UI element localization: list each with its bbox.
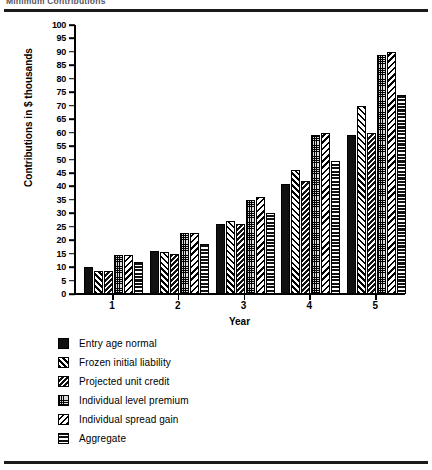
bar (114, 255, 123, 294)
bar (321, 133, 330, 294)
y-axis-tick-mark (69, 65, 75, 67)
legend-item-label: Entry age normal (79, 338, 157, 349)
x-axis-title: Year (74, 316, 405, 327)
y-axis-tick-mark (69, 159, 75, 161)
bar (180, 233, 189, 294)
legend-swatch (58, 357, 69, 368)
y-axis-tick-mark (69, 280, 75, 282)
x-axis-tick-label: 3 (241, 300, 247, 311)
y-axis-tick-mark (69, 118, 75, 120)
bar (367, 133, 376, 294)
legend-item: Projected unit credit (58, 372, 189, 391)
legend-item: Entry age normal (58, 334, 189, 353)
bar-group (281, 25, 341, 294)
y-axis-tick-mark (69, 293, 75, 295)
x-axis-tick-label: 2 (175, 300, 181, 311)
bar-group (84, 25, 144, 294)
y-axis-tick-label: 0 (0, 289, 66, 299)
bar (160, 252, 169, 294)
bar (200, 244, 209, 294)
legend-item-label: Frozen initial liability (79, 357, 171, 368)
page-title: Minimum Contributions (6, 0, 106, 6)
legend-item-label: Aggregate (79, 433, 126, 444)
x-axis-tick-label: 1 (109, 300, 115, 311)
y-axis-tick-mark (69, 38, 75, 40)
legend-swatch (58, 338, 69, 349)
y-axis-tick-label: 20 (0, 235, 66, 245)
legend-item: Aggregate (58, 429, 189, 448)
bar (216, 224, 225, 294)
y-axis-tick-mark (69, 24, 75, 26)
y-axis-tick-mark (69, 213, 75, 215)
chart-legend: Entry age normalFrozen initial liability… (58, 334, 189, 448)
legend-item-label: Individual spread gain (79, 414, 179, 425)
y-axis-tick-mark (69, 172, 75, 174)
bar (84, 267, 93, 294)
y-axis-tick-label: 25 (0, 222, 66, 232)
legend-swatch (58, 395, 69, 406)
bar (94, 271, 103, 294)
y-axis-tick-mark (69, 226, 75, 228)
legend-item: Individual spread gain (58, 410, 189, 429)
y-axis-title: Contributions in $ thousands (23, 28, 34, 208)
legend-item-label: Projected unit credit (79, 376, 169, 387)
y-axis-tick-mark (69, 266, 75, 268)
y-axis-tick-label: 5 (0, 276, 66, 286)
legend-item: Frozen initial liability (58, 353, 189, 372)
bar (291, 170, 300, 294)
y-axis-tick-label: 10 (0, 262, 66, 272)
y-axis-tick-label: 15 (0, 249, 66, 259)
y-axis-tick-mark (69, 51, 75, 53)
bar-group (150, 25, 210, 294)
bar (104, 271, 113, 294)
bar (311, 135, 320, 294)
bar (124, 255, 133, 294)
bar (266, 213, 275, 294)
legend-swatch (58, 433, 69, 444)
bar-group (216, 25, 276, 294)
bar (347, 135, 356, 294)
bar (357, 106, 366, 294)
legend-swatch (58, 376, 69, 387)
header-rule (4, 9, 428, 12)
bar (256, 197, 265, 294)
bar (397, 95, 406, 294)
bar (377, 55, 386, 294)
y-axis-tick-mark (69, 145, 75, 147)
bar (281, 184, 290, 294)
footer-rule (4, 461, 428, 464)
x-axis-tick-label: 4 (307, 300, 313, 311)
bar-group (347, 25, 407, 294)
bar (236, 224, 245, 294)
y-axis-tick-mark (69, 105, 75, 107)
bar (301, 181, 310, 294)
y-axis-tick-mark (69, 239, 75, 241)
bar (331, 161, 340, 294)
y-axis-tick-mark (69, 91, 75, 93)
bar (190, 233, 199, 294)
bar-groups (76, 25, 405, 294)
bar (150, 251, 159, 294)
legend-item: Individual level premium (58, 391, 189, 410)
y-axis-tick-mark (69, 132, 75, 134)
legend-swatch (58, 414, 69, 425)
bar (226, 221, 235, 294)
x-axis-tick-label: 5 (372, 300, 378, 311)
y-axis-tick-label: 30 (0, 208, 66, 218)
legend-item-label: Individual level premium (79, 395, 189, 406)
figure: Minimum Contributions 100959085807570656… (0, 0, 432, 470)
y-axis-tick-mark (69, 78, 75, 80)
bar (246, 200, 255, 294)
y-axis-tick-mark (69, 199, 75, 201)
y-axis-tick-mark (69, 186, 75, 188)
bar (387, 52, 396, 294)
bar (134, 262, 143, 294)
y-axis-tick-mark (69, 253, 75, 255)
bar (170, 254, 179, 294)
